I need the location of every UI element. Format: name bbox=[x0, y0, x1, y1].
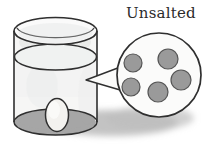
egg bbox=[46, 99, 69, 132]
rim-inner-shade bbox=[19, 23, 93, 43]
egg-highlight bbox=[48, 101, 60, 119]
magnifier-callout bbox=[117, 33, 201, 117]
particle-dot bbox=[158, 49, 178, 69]
illustration-svg: Unsalted bbox=[0, 0, 205, 150]
liquid-surface-ellipse bbox=[15, 44, 97, 70]
figure-label: Unsalted bbox=[126, 4, 196, 22]
particle-dot bbox=[124, 54, 142, 72]
figure-canvas: Unsalted bbox=[0, 0, 205, 150]
particle-dot bbox=[171, 70, 191, 90]
particle-dot bbox=[148, 82, 168, 102]
particle-dot bbox=[122, 78, 140, 96]
